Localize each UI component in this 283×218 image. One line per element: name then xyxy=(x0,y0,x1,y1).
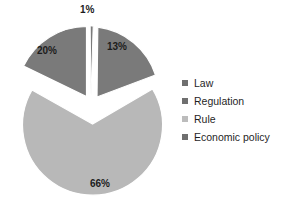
legend-item-economic-policy[interactable]: Economic policy xyxy=(182,128,282,146)
legend-label-law: Law xyxy=(194,77,213,89)
legend-swatch-icon xyxy=(182,80,188,86)
chart-legend: Law Regulation Rule Economic policy xyxy=(182,74,282,146)
legend-item-law[interactable]: Law xyxy=(182,74,282,92)
slice-label-rule: 13% xyxy=(107,41,127,52)
legend-swatch-icon xyxy=(182,134,188,140)
legend-label-economic-policy: Economic policy xyxy=(194,131,270,143)
legend-label-regulation: Regulation xyxy=(194,95,244,107)
pie-chart: 1% 20% 13% 66% Law Regulation Rule Econo… xyxy=(0,0,283,218)
legend-swatch-icon xyxy=(182,116,188,122)
legend-label-rule: Rule xyxy=(194,113,216,125)
legend-item-rule[interactable]: Rule xyxy=(182,110,282,128)
slice-label-economic-policy: 66% xyxy=(90,178,110,189)
pie-slice-rule[interactable] xyxy=(97,27,156,97)
slice-label-regulation: 1% xyxy=(80,4,94,15)
slice-label-law: 20% xyxy=(37,45,57,56)
pie-slice-law[interactable] xyxy=(24,27,87,97)
pie-slice-regulation[interactable] xyxy=(90,26,93,96)
legend-item-regulation[interactable]: Regulation xyxy=(182,92,282,110)
legend-swatch-icon xyxy=(182,98,188,104)
